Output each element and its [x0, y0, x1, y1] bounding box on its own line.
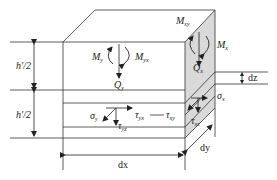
label-mxy: Mxy [176, 16, 190, 27]
label-tau-yz: τyz [118, 121, 127, 132]
label-tau-xy: τxy [166, 110, 175, 121]
label-tau-xz: τxz [191, 116, 200, 127]
my-arrow [108, 47, 113, 64]
plate-element-drawing [0, 0, 277, 180]
label-sigma-x-sub: x [222, 96, 225, 102]
label-sigma-y-sub: y [95, 116, 98, 122]
label-tau-yx-sub: yx [139, 115, 144, 121]
label-half-thickness-top: h'/2 [16, 61, 31, 71]
label-dy: dy [200, 143, 210, 153]
label-sigma-y: σy [90, 111, 98, 122]
label-mx: Mx [217, 40, 228, 51]
right-face-shade [185, 10, 215, 138]
label-qx: Qx [193, 63, 203, 74]
label-dx: dx [118, 160, 128, 170]
label-myx: Myx [135, 52, 149, 63]
label-my: My [92, 52, 103, 63]
label-tau-xy-sub: xy [170, 115, 175, 121]
label-tau-yx: τyx [135, 110, 144, 121]
label-myx-sub: yx [143, 57, 148, 63]
myx-arrow [124, 47, 129, 64]
label-half-thickness-bottom: h'/2 [16, 110, 31, 120]
label-qy-sub: y [121, 85, 124, 91]
label-tau-xz-sub: xz [195, 121, 200, 127]
label-sigma-x: σx [217, 91, 225, 102]
sigma-y-arrow [103, 108, 116, 121]
label-qy: Qy [114, 80, 124, 91]
label-my-sub: y [100, 57, 103, 63]
label-qx-sub: x [200, 68, 203, 74]
label-tau-yz-sub: yz [122, 126, 127, 132]
label-dz: dz [248, 73, 257, 83]
label-mxy-sub: xy [184, 21, 189, 27]
label-mx-sub: x [225, 45, 228, 51]
